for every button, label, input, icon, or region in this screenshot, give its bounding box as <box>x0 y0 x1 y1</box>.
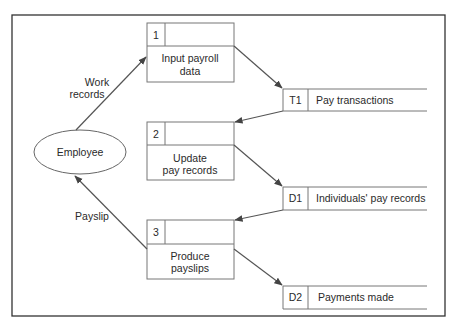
flow-t1-to-2 <box>235 111 283 122</box>
store-id: T1 <box>289 94 301 106</box>
flow-label-work-line2: records <box>69 88 104 100</box>
process-label-line1: Update <box>173 152 207 164</box>
store-label: Pay transactions <box>316 94 394 106</box>
flow-label-payslip: Payslip <box>75 210 109 222</box>
process-label-line2: pay records <box>163 164 218 176</box>
flow-label-work-line1: Work <box>85 76 110 88</box>
process-3: 3 Produce payslips <box>147 220 234 279</box>
process-label-line2: payslips <box>171 262 209 274</box>
data-store-d2: D2 Payments made <box>283 286 427 309</box>
store-label: Individuals' pay records <box>316 192 425 204</box>
data-flow-diagram: Employee 1 Input payroll data 2 Update p… <box>0 0 454 328</box>
store-id: D2 <box>289 291 303 303</box>
process-1: 1 Input payroll data <box>147 23 234 82</box>
external-entity-employee: Employee <box>34 130 126 174</box>
flow-3-to-d2 <box>234 249 282 285</box>
entity-label: Employee <box>57 146 104 158</box>
data-store-d1: D1 Individuals' pay records <box>283 187 427 210</box>
process-label-line1: Produce <box>170 250 209 262</box>
process-id: 2 <box>153 128 159 140</box>
store-label: Payments made <box>318 291 394 303</box>
process-2: 2 Update pay records <box>147 122 234 180</box>
process-id: 1 <box>153 29 159 41</box>
store-id: D1 <box>289 192 303 204</box>
data-store-t1: T1 Pay transactions <box>283 89 427 111</box>
flow-1-to-t1 <box>234 46 282 88</box>
flow-d1-to-3 <box>235 210 283 220</box>
process-label-line1: Input payroll <box>161 52 218 64</box>
process-label-line2: data <box>180 65 201 77</box>
flow-2-to-d1 <box>234 145 282 186</box>
process-id: 3 <box>153 226 159 238</box>
